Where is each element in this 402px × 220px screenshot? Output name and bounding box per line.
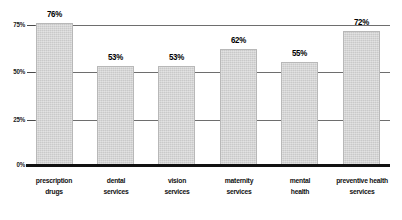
bar-value-dental-services: 53% bbox=[99, 52, 132, 62]
ytick-mark-25 bbox=[27, 120, 35, 121]
ytick-label-75: 75% bbox=[3, 21, 25, 28]
bar-value-preventive-health-services: 72% bbox=[345, 17, 378, 27]
bar-prescription-drugs[interactable] bbox=[36, 23, 73, 165]
bar-dental-services[interactable] bbox=[97, 66, 134, 165]
ytick-label-25: 25% bbox=[3, 116, 25, 123]
ytick-label-0: 0% bbox=[3, 161, 25, 168]
category-line-1: preventive health bbox=[326, 175, 398, 186]
gridline-75 bbox=[35, 25, 390, 26]
bar-value-prescription-drugs: 76% bbox=[38, 9, 71, 19]
category-label-preventive-health-services: preventive health services bbox=[326, 175, 398, 197]
gridline-50 bbox=[35, 72, 390, 73]
bar-vision-services[interactable] bbox=[158, 66, 195, 165]
ytick-mark-75 bbox=[27, 25, 35, 26]
category-line-2: services bbox=[326, 186, 398, 197]
bar-maternity-services[interactable] bbox=[220, 49, 257, 165]
bar-value-mental-health: 55% bbox=[283, 48, 316, 58]
x-axis-baseline bbox=[26, 164, 390, 167]
plot-area: 75% 50% 25% 0% 76% 53% 53% 62% 55% 72% p… bbox=[0, 0, 402, 220]
bar-preventive-health-services[interactable] bbox=[343, 31, 380, 165]
bar-value-maternity-services: 62% bbox=[222, 35, 255, 45]
bar-chart: 75% 50% 25% 0% 76% 53% 53% 62% 55% 72% p… bbox=[0, 0, 402, 220]
bar-mental-health[interactable] bbox=[281, 62, 318, 165]
ytick-mark-50 bbox=[27, 72, 35, 73]
gridline-25 bbox=[35, 120, 390, 121]
bar-value-vision-services: 53% bbox=[160, 52, 193, 62]
ytick-label-50: 50% bbox=[3, 68, 25, 75]
